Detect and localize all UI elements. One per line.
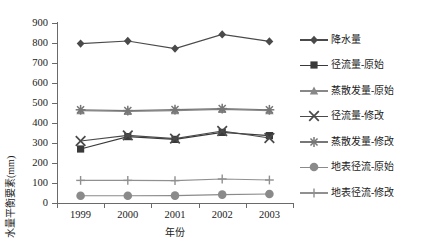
legend-item-0[interactable]: 降水量 (300, 27, 425, 53)
data-point-plus (310, 188, 319, 197)
legend-item-2[interactable]: 蒸散发量-原始 (300, 78, 425, 104)
plus-icon (300, 186, 328, 200)
data-point-diamond (124, 37, 132, 45)
legend-item-6[interactable]: 地表径流-修改 (300, 180, 425, 206)
data-point-star (76, 105, 86, 115)
data-point-circle (124, 192, 133, 201)
triangle-icon (300, 84, 328, 98)
legend-item-label: 径流量-原始 (328, 60, 384, 70)
data-point-triangle (310, 86, 318, 94)
series-circle (76, 190, 273, 200)
data-point-diamond (77, 39, 85, 47)
data-point-circle (218, 190, 227, 199)
data-point-plus (76, 176, 85, 185)
legend-item-label: 径流量-修改 (328, 111, 384, 121)
data-point-square (310, 62, 317, 69)
data-point-plus (218, 175, 227, 184)
data-point-circle (265, 190, 274, 199)
data-point-diamond (310, 36, 318, 44)
data-point-star (217, 104, 227, 114)
series-plus (76, 175, 274, 185)
data-point-circle (171, 191, 180, 200)
data-point-diamond (171, 44, 179, 52)
data-point-circle (310, 163, 319, 172)
legend-item-3[interactable]: 径流量-修改 (300, 104, 425, 130)
diamond-icon (300, 33, 328, 47)
legend-item-1[interactable]: 径流量-原始 (300, 53, 425, 79)
series-diamond (77, 30, 274, 53)
square-icon (300, 58, 328, 72)
series-square (77, 129, 273, 153)
data-point-diamond (266, 37, 274, 45)
data-point-star (265, 105, 275, 115)
data-point-square (77, 145, 84, 152)
data-point-x (309, 111, 319, 121)
legend-item-label: 蒸散发量-原始 (328, 86, 394, 96)
legend-item-4[interactable]: 蒸散发量-修改 (300, 129, 425, 155)
legend-item-label: 蒸散发量-修改 (328, 137, 394, 147)
legend-item-label: 降水量 (328, 35, 361, 45)
data-point-star (309, 137, 319, 147)
series-star (76, 104, 275, 116)
data-point-plus (171, 176, 180, 185)
data-point-circle (76, 192, 85, 201)
legend-item-5[interactable]: 地表径流-原始 (300, 155, 425, 181)
legend-item-label: 地表径流-原始 (328, 162, 394, 172)
x-icon (300, 109, 328, 123)
star-icon (300, 135, 328, 149)
legend-item-label: 地表径流-修改 (328, 188, 394, 198)
data-point-star (123, 106, 133, 116)
data-point-star (170, 105, 180, 115)
data-point-diamond (218, 30, 226, 38)
chart-figure: 0100200300400500600700800900 19992000200… (0, 0, 425, 246)
data-point-plus (123, 176, 132, 185)
data-point-plus (265, 176, 274, 185)
circle-icon (300, 160, 328, 174)
legend: 降水量径流量-原始蒸散发量-原始径流量-修改蒸散发量-修改地表径流-原始地表径流… (300, 27, 425, 206)
